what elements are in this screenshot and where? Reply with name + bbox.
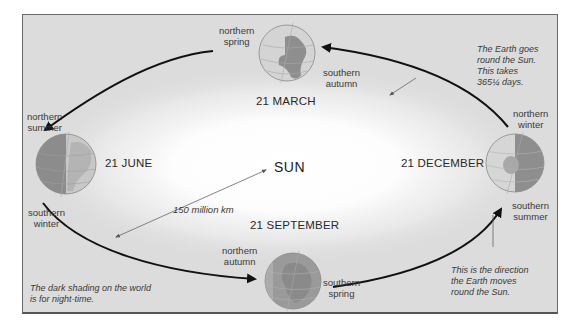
march-south-label: southern autumn — [323, 67, 360, 89]
date-december: 21 DECEMBER — [401, 157, 484, 169]
direction-note: This is the direction the Earth moves ro… — [451, 265, 529, 298]
september-north-label: northern autumn — [222, 245, 257, 267]
globe-december — [486, 132, 545, 194]
globe-september — [265, 251, 321, 311]
june-north-label: northern summer — [27, 111, 62, 133]
shading-note: The dark shading on the world is for nig… — [30, 283, 151, 305]
date-september: 21 SEPTEMBER — [250, 219, 339, 231]
globe-march — [259, 23, 315, 83]
december-south-label: southern summer — [512, 200, 549, 222]
orbit-note-leader — [390, 78, 416, 95]
date-june: 21 JUNE — [105, 157, 152, 169]
sun-label: SUN — [274, 159, 305, 175]
orbit-note: The Earth goes round the Sun. This takes… — [477, 44, 539, 88]
december-north-label: northern winter — [513, 108, 548, 130]
globe-june — [36, 132, 96, 197]
march-north-label: northern spring — [219, 25, 254, 47]
diagram-frame: SUN 150 million km northern spring south… — [22, 14, 558, 314]
september-south-label: southern spring — [323, 277, 360, 299]
june-south-label: southern winter — [28, 207, 65, 229]
date-march: 21 MARCH — [256, 95, 316, 107]
distance-label: 150 million km — [173, 204, 234, 215]
orbit-arc-march-june — [45, 51, 213, 130]
